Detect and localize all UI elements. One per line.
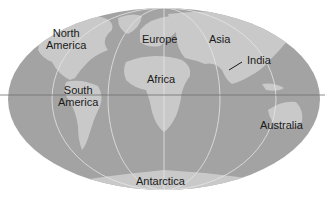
label-south-america: South America	[58, 84, 98, 108]
label-australia: Australia	[260, 119, 303, 131]
label-africa: Africa	[147, 73, 175, 85]
label-europe: Europe	[142, 33, 177, 45]
label-asia: Asia	[209, 33, 230, 45]
label-antarctica: Antarctica	[136, 175, 185, 187]
label-north-america: North America	[46, 27, 86, 51]
label-india: India	[247, 54, 271, 66]
